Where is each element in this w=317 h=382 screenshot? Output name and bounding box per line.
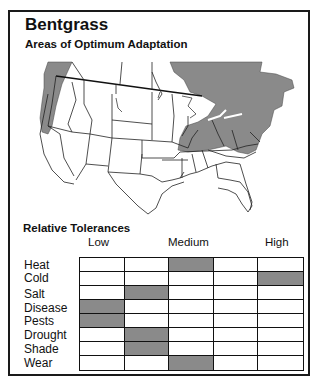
grid-cell-wear-2 xyxy=(169,356,214,370)
grid-cell-cold-0 xyxy=(80,272,125,286)
grid-cell-pests-2 xyxy=(169,314,214,328)
grid-cell-wear-0 xyxy=(80,356,125,370)
grid-cell-heat-4 xyxy=(258,258,303,272)
grid-cell-disease-0 xyxy=(80,300,125,314)
grid-cell-pests-4 xyxy=(258,314,303,328)
grid-cell-salt-3 xyxy=(214,286,259,300)
shaded-northeast xyxy=(170,62,294,154)
grid-cell-disease-1 xyxy=(125,300,170,314)
grid-cell-salt-2 xyxy=(169,286,214,300)
grid-cell-shade-1 xyxy=(125,342,170,356)
tolerance-grid xyxy=(79,257,304,371)
grid-cell-shade-4 xyxy=(258,342,303,356)
row-label-drought: Drought xyxy=(24,329,67,342)
map-heading: Areas of Optimum Adaptation xyxy=(25,38,188,50)
grid-cell-shade-2 xyxy=(169,342,214,356)
grid-cell-disease-2 xyxy=(169,300,214,314)
grid-cell-heat-0 xyxy=(80,258,125,272)
level-label-high: High xyxy=(265,236,289,248)
row-label-salt: Salt xyxy=(24,288,45,301)
grid-cell-salt-1 xyxy=(125,286,170,300)
grid-cell-wear-4 xyxy=(258,356,303,370)
grid-cell-salt-4 xyxy=(258,286,303,300)
grid-cell-cold-4 xyxy=(258,272,303,286)
grid-cell-drought-2 xyxy=(169,328,214,342)
grid-cell-cold-3 xyxy=(214,272,259,286)
grid-cell-wear-3 xyxy=(214,356,259,370)
tolerances-heading: Relative Tolerances xyxy=(23,222,130,234)
grid-cell-cold-1 xyxy=(125,272,170,286)
grid-cell-disease-3 xyxy=(214,300,259,314)
row-label-shade: Shade xyxy=(24,343,59,356)
grid-cell-shade-3 xyxy=(214,342,259,356)
grid-cell-heat-2 xyxy=(169,258,214,272)
level-label-low: Low xyxy=(88,236,109,248)
grid-cell-salt-0 xyxy=(80,286,125,300)
grid-cell-heat-1 xyxy=(125,258,170,272)
grid-cell-pests-0 xyxy=(80,314,125,328)
grid-cell-drought-3 xyxy=(214,328,259,342)
shaded-pacific-northwest xyxy=(40,62,72,134)
grid-cell-pests-1 xyxy=(125,314,170,328)
grid-cell-heat-3 xyxy=(214,258,259,272)
level-label-medium: Medium xyxy=(168,236,209,248)
grid-cell-shade-0 xyxy=(80,342,125,356)
grid-cell-drought-4 xyxy=(258,328,303,342)
grid-cell-cold-2 xyxy=(169,272,214,286)
row-label-cold: Cold xyxy=(24,272,49,285)
grid-cell-wear-1 xyxy=(125,356,170,370)
grid-cell-disease-4 xyxy=(258,300,303,314)
grid-cell-pests-3 xyxy=(214,314,259,328)
adaptation-map xyxy=(12,54,310,224)
row-label-wear: Wear xyxy=(24,357,52,370)
page-title: Bentgrass xyxy=(25,15,108,35)
grid-cell-drought-0 xyxy=(80,328,125,342)
row-label-pests: Pests xyxy=(24,315,54,328)
grid-cell-drought-1 xyxy=(125,328,170,342)
